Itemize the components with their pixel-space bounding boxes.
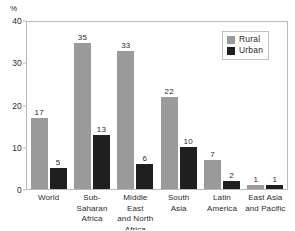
x-axis-label-line: Latin [213,193,231,202]
bar-urban[interactable] [136,164,153,189]
bar-urban[interactable] [266,185,283,189]
y-axis-tick-label: 10 [0,143,22,153]
bar-column: 6 [136,22,153,189]
x-axis-category-label: SouthAsia [157,193,200,230]
bar-rural[interactable] [247,185,264,189]
y-axis-unit-label: % [10,4,17,13]
y-axis-tick-label: 0 [0,185,22,195]
bar-urban[interactable] [180,147,197,189]
bar-rural[interactable] [161,97,178,189]
bar-value-label: 17 [35,108,44,118]
bar-value-label: 5 [56,158,61,168]
x-axis-labels: WorldSub-SaharanAfricaMiddle Eastand Nor… [27,193,287,230]
x-axis-label-line: Middle East [123,193,147,213]
x-axis-label-line: East Asia [248,193,282,202]
bar-column: 17 [31,22,48,189]
bar-group: 175 [27,22,70,189]
bar-value-label: 2 [229,171,234,181]
bar-column: 33 [117,22,134,189]
bar-column: 10 [180,22,197,189]
bar-urban[interactable] [223,181,240,189]
x-axis-label-line: World [38,193,59,202]
bar-value-label: 1 [253,175,258,185]
y-axis-tick-mark [23,63,26,64]
x-axis-label-line: Africa [81,214,102,223]
x-axis-label-line: Saharan [77,204,108,213]
bar-value-label: 6 [142,154,147,164]
legend-item[interactable]: Urban [227,45,263,56]
legend-label: Rural [239,34,260,45]
bar-urban[interactable] [50,168,67,189]
x-axis-category-label: World [27,193,70,230]
y-axis-tick-mark [23,190,26,191]
bar-urban[interactable] [93,135,110,189]
bar-group: 2210 [157,22,200,189]
x-axis-category-label: Middle Eastand NorthAfrica [114,193,157,230]
bar-column: 13 [93,22,110,189]
x-axis-label-line: Sub- [83,193,100,202]
y-axis-tick-label: 40 [0,16,22,26]
y-axis-tick-label: 30 [0,58,22,68]
legend-swatch-icon [227,47,235,55]
legend-label: Urban [239,45,263,56]
bar-column: 35 [74,22,91,189]
bar-value-label: 35 [78,33,87,43]
bar-value-label: 13 [97,125,106,135]
x-axis-label-line: and Pacific [245,204,285,213]
bar-value-label: 1 [272,175,277,185]
bar-rural[interactable] [31,118,48,189]
y-axis-tick-label: 20 [0,101,22,111]
chart-legend: RuralUrban [222,31,269,60]
bar-group: 3513 [70,22,113,189]
bar-rural[interactable] [74,43,91,189]
bar-value-label: 33 [121,41,130,51]
legend-swatch-icon [227,36,235,44]
x-axis-category-label: Sub-SaharanAfrica [70,193,113,230]
bar-column: 5 [50,22,67,189]
bar-value-label: 22 [164,87,173,97]
x-axis-label-line: America [207,204,237,213]
bar-column: 22 [161,22,178,189]
x-axis-label-line: Africa [125,225,146,231]
x-axis-category-label: East Asiaand Pacific [244,193,287,230]
bar-value-label: 10 [183,137,192,147]
bar-rural[interactable] [117,51,134,189]
bar-column: 7 [204,22,221,189]
y-axis-tick-mark [23,21,26,22]
bar-chart: % 010203040 175351333622107211 WorldSub-… [0,0,295,230]
y-axis-tick-mark [23,147,26,148]
x-axis-label-line: South [168,193,189,202]
x-axis-label-line: and North [117,214,153,223]
x-axis-label-line: Asia [171,204,187,213]
x-axis-category-label: LatinAmerica [200,193,243,230]
y-axis-tick-mark [23,105,26,106]
bar-rural[interactable] [204,160,221,189]
bar-group: 336 [114,22,157,189]
legend-item[interactable]: Rural [227,34,263,45]
bar-value-label: 7 [210,150,215,160]
